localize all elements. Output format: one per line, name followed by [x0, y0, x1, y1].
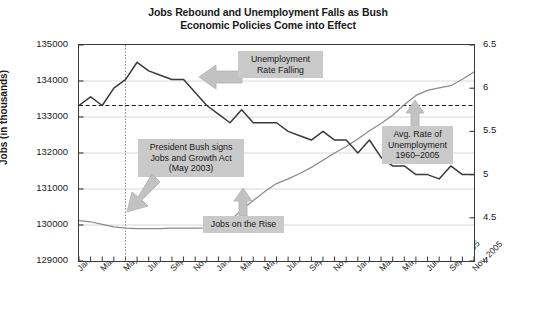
y-tick-label-left: 130000: [0, 219, 68, 229]
callout-line: Unemployment: [243, 54, 318, 65]
x-tick-marks: [79, 257, 474, 262]
y-tick-label-right: 5.5: [483, 125, 496, 135]
arrow-unemployment-rate-falling: [196, 62, 244, 96]
chart-title: Jobs Rebound and Unemployment Falls as B…: [0, 6, 536, 32]
y-tick-label-right: 4.5: [483, 212, 496, 222]
y-tick-label-right: 6.5: [483, 39, 496, 49]
callout-line: President Bush signs: [143, 142, 239, 153]
callout-line: Jobs on the Rise: [208, 219, 279, 230]
chart-title-line-2: Economic Policies Come into Effect: [0, 19, 536, 32]
arrow-jobs-on-the-rise: [232, 186, 254, 218]
arrow-jobs-and-growth-act: [122, 172, 162, 220]
y-tick-label-right: 6: [483, 82, 488, 92]
callout-line: Rate Falling: [243, 65, 318, 76]
y-tick-label-left: 132000: [0, 147, 68, 157]
y-tick-label-left: 135000: [0, 39, 68, 49]
y-tick-label-left: 129000: [0, 255, 68, 265]
chart-title-line-1: Jobs Rebound and Unemployment Falls as B…: [0, 6, 536, 19]
y-tick-label-left: 131000: [0, 183, 68, 193]
y-tick-label-left: 134000: [0, 75, 68, 85]
y-tick-label-right: 5: [483, 169, 488, 179]
chart-figure: Jobs Rebound and Unemployment Falls as B…: [0, 0, 536, 328]
y-tick-label-left: 133000: [0, 111, 68, 121]
callout-avg-rate-unemployment: Avg. Rate of Unemployment 1960–2005: [382, 126, 453, 164]
callout-line: Jobs and Growth Act: [143, 153, 239, 164]
callout-line: 1960–2005: [387, 150, 448, 161]
callout-jobs-on-the-rise: Jobs on the Rise: [203, 216, 284, 233]
callout-line: Avg. Rate of: [387, 129, 448, 140]
arrow-avg-rate-unemployment: [404, 99, 426, 129]
callout-unemployment-rate-falling: Unemployment Rate Falling: [238, 51, 323, 78]
callout-line: Unemployment: [387, 140, 448, 151]
